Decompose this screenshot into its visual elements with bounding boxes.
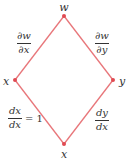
denominator: dx — [96, 122, 108, 133]
node-dot-y — [111, 78, 115, 82]
node-label-x-bottom: x — [61, 149, 67, 160]
denominator: ∂y — [97, 45, 108, 56]
node-dot-x-left — [13, 78, 17, 82]
denominator: ∂x — [19, 45, 30, 56]
equals-one: = 1 — [25, 113, 43, 124]
diagram-canvas — [0, 0, 128, 162]
node-label-x-left: x — [3, 76, 9, 87]
node-dot-w — [62, 14, 66, 18]
numerator: dy — [96, 108, 108, 119]
derivative-x-x-label: dx dx — [8, 106, 22, 130]
numerator: ∂w — [95, 31, 109, 42]
partial-w-y-label: ∂w ∂y — [95, 31, 109, 55]
numerator: dx — [9, 106, 21, 117]
node-label-w: w — [59, 2, 68, 13]
numerator: ∂w — [17, 31, 31, 42]
partial-w-x-label: ∂w ∂x — [17, 31, 31, 55]
denominator: dx — [9, 120, 21, 131]
node-dot-x-bottom — [62, 142, 66, 146]
node-label-y: y — [119, 76, 125, 87]
derivative-y-x-label: dy dx — [95, 108, 109, 132]
